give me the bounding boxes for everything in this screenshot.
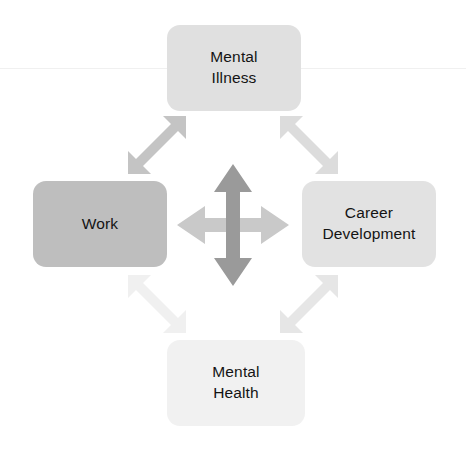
node-work[interactable]: Work — [33, 181, 167, 267]
node-work-label: Work — [82, 214, 118, 235]
node-career-development[interactable]: Career Development — [302, 181, 436, 267]
node-mental-illness-label: Mental Illness — [210, 47, 257, 88]
arrow-mental-health-career-development — [280, 275, 338, 333]
node-career-development-label: Career Development — [323, 203, 416, 244]
node-mental-health[interactable]: Mental Health — [167, 340, 305, 426]
arrow-work-mental-illness — [128, 116, 186, 174]
node-mental-illness[interactable]: Mental Illness — [167, 25, 301, 111]
arrow-work-mental-health — [128, 275, 186, 333]
node-mental-health-label: Mental Health — [212, 362, 259, 403]
diagram-canvas: Mental Illness Work Career Development M… — [0, 0, 466, 451]
arrow-mental-illness-career-development — [280, 116, 338, 174]
